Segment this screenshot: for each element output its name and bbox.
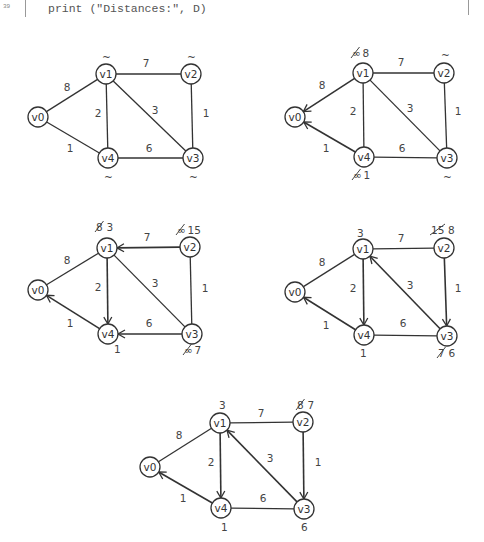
edge-v1-v4: 2 (95, 258, 112, 324)
distance-value: ~ (443, 171, 452, 183)
struck-distance: ∞ (353, 169, 362, 181)
node-label: v4 (358, 329, 371, 341)
node-label: v1 (357, 243, 370, 255)
distance-annotation-v2: ∞15 (176, 224, 201, 236)
node-v2: v2 (434, 238, 454, 258)
edge-weight: 1 (315, 456, 322, 468)
edge-v0-v4: 1 (47, 122, 100, 154)
edge-v1-v3: 3 (370, 80, 440, 151)
node-label: v4 (215, 502, 228, 514)
edge-weight: 3 (152, 277, 159, 289)
edge-v4-v3: 6 (231, 492, 294, 509)
distance-value: 8 (448, 224, 455, 236)
struck-distance: ∞ (184, 344, 193, 356)
edge-v1-v4: 2 (350, 259, 368, 325)
edge-v4-v3: 6 (374, 317, 437, 336)
distance-value: 8 (363, 47, 370, 59)
edge-v2-v3: 1 (190, 257, 208, 324)
node-v0: v0 (28, 107, 48, 127)
node-label: v2 (185, 68, 198, 80)
distance-annotation-v4: ~ (104, 171, 113, 183)
distance-annotation-v2: ~ (187, 51, 196, 63)
distance-annotation-v1: 3 (219, 399, 226, 411)
edge-weight: 7 (398, 56, 405, 68)
edge-weight: 1 (323, 142, 330, 154)
edge-weight: 3 (407, 279, 414, 291)
edge-weight: 8 (64, 81, 71, 93)
edge-weight: 1 (67, 142, 74, 154)
node-v2: v2 (293, 412, 313, 432)
edge-weight: 1 (455, 105, 462, 117)
distance-value: 7 (308, 399, 315, 411)
node-label: v2 (184, 241, 197, 253)
edge-v1-v2: 7 (373, 56, 434, 73)
edge-weight: 6 (399, 142, 406, 154)
edge-weight: 1 (455, 282, 462, 294)
distance-annotation-v4: 1 (114, 343, 121, 355)
edge-weight: 2 (350, 105, 357, 117)
distance-value: 3 (357, 227, 364, 239)
edge-weight: 1 (202, 282, 209, 294)
edge-v2-v3: 1 (300, 432, 322, 499)
node-label: v4 (102, 328, 115, 340)
edge-v1-v4: 2 (208, 433, 225, 498)
edge-v1-v4: 2 (350, 83, 364, 147)
node-label: v2 (297, 416, 310, 428)
distance-annotation-v3: ~ (443, 171, 452, 183)
graph-step-1: 8723116v0v1v2v3v4~~~~ (28, 51, 209, 183)
distance-annotation-v1: 83 (95, 221, 113, 233)
edge-v1-v2: 7 (116, 57, 181, 74)
edge-v3-v4: 6 (118, 317, 182, 338)
node-label: v3 (441, 152, 454, 164)
edge-weight: 1 (323, 319, 330, 331)
node-v0: v0 (28, 280, 48, 300)
node-v1: v1 (96, 64, 116, 84)
edge-weight: 8 (319, 79, 326, 91)
distance-annotation-v4: 1 (360, 347, 367, 359)
distance-value: 1 (221, 521, 228, 533)
node-label: v0 (144, 461, 157, 473)
distance-annotation-v1: 3 (357, 227, 364, 239)
edge-v4-v3: 6 (118, 142, 183, 158)
edge-weight: 8 (64, 254, 71, 266)
distance-value: 1 (364, 169, 371, 181)
node-v0: v0 (140, 457, 160, 477)
node-label: v1 (214, 417, 227, 429)
distance-value: 3 (219, 399, 226, 411)
distance-annotation-v1: ∞8 (351, 47, 369, 59)
distance-annotation-v3: ∞7 (183, 344, 201, 356)
graph-step-4: 8723116v0v1v2v3v43158176 (285, 224, 461, 359)
edge-v1-v4: 2 (95, 84, 108, 148)
node-label: v0 (32, 284, 45, 296)
distance-annotation-v4: ∞1 (352, 169, 370, 181)
edge-v0-v1: 8 (46, 79, 97, 111)
node-label: v4 (358, 151, 371, 163)
node-v2: v2 (434, 63, 454, 83)
edge-weight: 6 (146, 142, 153, 154)
edge-weight: 2 (95, 281, 102, 293)
node-v2: v2 (180, 237, 200, 257)
distance-value: 1 (114, 343, 121, 355)
edge-v2-v3: 1 (444, 83, 461, 148)
node-label: v3 (298, 503, 311, 515)
node-v4: v4 (98, 324, 118, 344)
edge-v4-v0: 1 (304, 122, 356, 154)
node-v1: v1 (353, 63, 373, 83)
node-label: v3 (187, 152, 200, 164)
edge-weight: 7 (258, 407, 265, 419)
edge-weight: 8 (319, 256, 326, 268)
edge-v2-v3: 1 (191, 84, 209, 148)
node-v3: v3 (294, 499, 314, 519)
node-label: v3 (186, 328, 199, 340)
node-label: v2 (438, 67, 451, 79)
edge-weight: 3 (407, 102, 414, 114)
edge-v4-v3: 6 (374, 142, 437, 158)
edge-weight: 1 (67, 317, 74, 329)
edge-v1-v2: 7 (230, 407, 293, 423)
distance-value: 6 (301, 521, 308, 533)
edge-weight: 2 (350, 282, 357, 294)
node-v0: v0 (285, 282, 305, 302)
edge-weight: 1 (203, 107, 210, 119)
node-v1: v1 (97, 238, 117, 258)
distance-value: ~ (189, 171, 198, 183)
